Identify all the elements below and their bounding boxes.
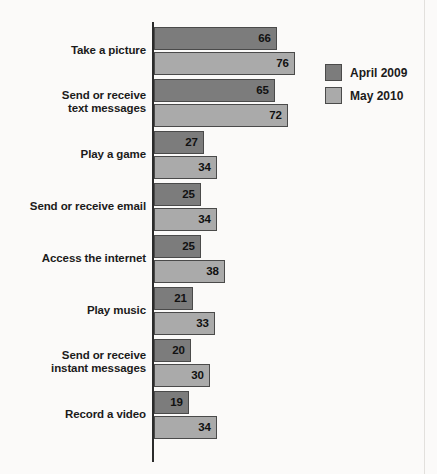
category-label-line: Send or receive bbox=[0, 89, 146, 103]
bar: 25 bbox=[154, 183, 201, 206]
bar: 20 bbox=[154, 339, 191, 362]
bar: 21 bbox=[154, 287, 193, 310]
bar-value-label: 21 bbox=[174, 293, 192, 305]
bar: 34 bbox=[154, 208, 217, 231]
bar-value-label: 72 bbox=[269, 110, 287, 122]
category-label: Send or receive email bbox=[0, 200, 146, 213]
bar-value-label: 34 bbox=[198, 422, 216, 434]
bar: 72 bbox=[154, 104, 288, 127]
bar: 65 bbox=[154, 79, 275, 102]
bar-value-label: 34 bbox=[198, 214, 216, 226]
bar: 33 bbox=[154, 312, 215, 335]
category-label: Take a picture bbox=[0, 44, 146, 57]
legend-swatch bbox=[325, 64, 342, 81]
bar: 76 bbox=[154, 52, 295, 75]
legend-swatch bbox=[325, 87, 342, 104]
bar: 34 bbox=[154, 156, 217, 179]
bar: 38 bbox=[154, 260, 225, 283]
bar-value-label: 65 bbox=[256, 85, 274, 97]
bar-value-label: 30 bbox=[191, 370, 209, 382]
bar-value-label: 25 bbox=[182, 189, 200, 201]
bar-value-label: 20 bbox=[172, 345, 190, 357]
bar-chart: Take a picture6676Send or receivetext me… bbox=[0, 0, 437, 474]
bar-value-label: 66 bbox=[258, 33, 276, 45]
category-label-line: text messages bbox=[0, 102, 146, 116]
category-label-line: instant messages bbox=[0, 362, 146, 376]
category-label: Send or receiveinstant messages bbox=[0, 349, 146, 376]
bar-value-label: 38 bbox=[206, 266, 224, 278]
category-label: Play a game bbox=[0, 148, 146, 161]
bar-value-label: 33 bbox=[196, 318, 214, 330]
bar: 30 bbox=[154, 364, 210, 387]
bar: 34 bbox=[154, 416, 217, 439]
category-label: Play music bbox=[0, 304, 146, 317]
bar: 27 bbox=[154, 131, 204, 154]
bar-value-label: 27 bbox=[185, 137, 203, 149]
bar: 66 bbox=[154, 27, 277, 50]
category-label: Access the internet bbox=[0, 252, 146, 265]
category-label: Send or receivetext messages bbox=[0, 89, 146, 116]
chart-legend: April 2009May 2010 bbox=[325, 62, 407, 108]
bar: 25 bbox=[154, 235, 201, 258]
bar-value-label: 25 bbox=[182, 241, 200, 253]
bar-value-label: 34 bbox=[198, 162, 216, 174]
legend-label: April 2009 bbox=[350, 66, 407, 80]
legend-item: April 2009 bbox=[325, 62, 407, 83]
legend-label: May 2010 bbox=[350, 89, 403, 103]
category-label: Record a video bbox=[0, 408, 146, 421]
bar-value-label: 76 bbox=[276, 58, 294, 70]
category-label-line: Send or receive bbox=[0, 349, 146, 363]
legend-item: May 2010 bbox=[325, 85, 407, 106]
bar-value-label: 19 bbox=[170, 397, 188, 409]
bar: 19 bbox=[154, 391, 189, 414]
